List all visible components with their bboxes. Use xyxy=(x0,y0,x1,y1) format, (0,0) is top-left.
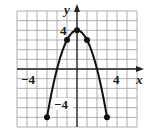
x-tick-label-neg4: −4 xyxy=(21,72,35,87)
x-axis-label: x xyxy=(135,72,143,87)
y-tick-label-4: 4 xyxy=(60,23,67,38)
y-tick-label-neg4: −4 xyxy=(54,97,68,112)
data-point xyxy=(84,37,90,43)
y-axis-label: y xyxy=(62,2,70,17)
x-tick-label-4: 4 xyxy=(113,72,120,87)
graph: y x −4 4 4 −4 xyxy=(0,0,146,133)
data-point xyxy=(44,114,50,120)
data-point xyxy=(74,27,80,33)
y-axis-arrow-icon xyxy=(74,4,80,12)
data-point xyxy=(104,114,110,120)
